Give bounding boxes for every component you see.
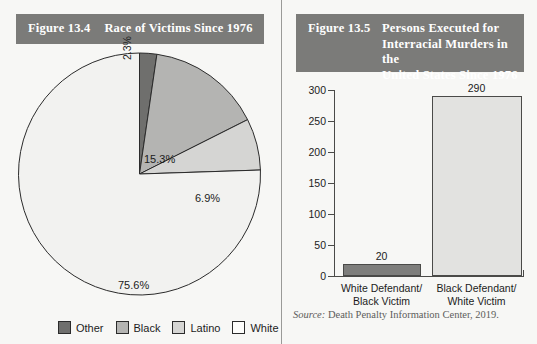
y-tick-100 [328, 214, 334, 215]
figure-13-5-title-line-1: Persons Executed for [382, 21, 524, 37]
y-axis-line [334, 90, 335, 276]
legend-label-latino: Latino [190, 322, 220, 334]
legend-label-black: Black [134, 322, 161, 334]
legend-swatch-other [58, 321, 71, 334]
y-tick-150 [328, 183, 334, 184]
pie-chart-svg [17, 50, 262, 298]
figures-page: Figure 13.4Race of Victims Since 1976 2.… [0, 0, 537, 344]
x-category-label-1: Black Defendant/White Victim [429, 282, 524, 308]
bar-value-1: 290 [447, 82, 507, 94]
x-category-line: Black Defendant/ [429, 282, 524, 295]
x-category-line: Black Victim [334, 295, 429, 308]
y-tick-200 [328, 152, 334, 153]
figure-13-4-number: Figure 13.4 [28, 21, 90, 36]
source-note: Source: Death Penalty Information Center… [293, 309, 499, 320]
pie-label-other: 2.3% [121, 36, 133, 60]
legend-swatch-white [232, 321, 245, 334]
bar-value-0: 20 [352, 250, 412, 262]
panel-divider [281, 0, 282, 344]
x-category-label-0: White Defendant/Black Victim [334, 282, 429, 308]
pie-label-white: 75.6% [118, 279, 149, 291]
legend-label-white: White [250, 322, 278, 334]
y-tick-label-250: 250 [296, 116, 326, 126]
source-text: Death Penalty Information Center, 2019. [328, 309, 499, 320]
bar-0 [343, 264, 421, 276]
legend-item-other: Other [58, 321, 104, 334]
x-category-line: White Victim [429, 295, 524, 308]
y-tick-250 [328, 121, 334, 122]
pie-label-latino: 6.9% [195, 192, 220, 204]
legend-item-black: Black [116, 321, 161, 334]
x-axis-line [334, 276, 524, 277]
y-tick-label-0: 0 [296, 271, 326, 281]
source-prefix: Source: [293, 309, 325, 320]
pie-chart: 2.3% 15.3% 6.9% 75.6% [17, 50, 262, 298]
figure-13-4-title-bar: Figure 13.4Race of Victims Since 1976 [16, 14, 264, 44]
y-tick-0 [328, 276, 334, 277]
y-tick-label-300: 300 [296, 85, 326, 95]
figure-13-4-title-text: Race of Victims Since 1976 [104, 21, 252, 35]
bar-1 [432, 96, 522, 276]
figure-13-5-title-line-3: United States Since 1976 [382, 68, 524, 84]
y-tick-50 [328, 245, 334, 246]
figure-13-5-title-bar: Figure 13.5 Persons Executed for Interra… [296, 14, 524, 72]
bar-chart: 050100150200250300 20290 White Defendant… [296, 84, 528, 284]
figure-13-5-title-line-2: Interracial Murders in the [382, 37, 524, 68]
y-tick-label-150: 150 [296, 178, 326, 188]
y-tick-label-50: 50 [296, 240, 326, 250]
y-tick-label-200: 200 [296, 147, 326, 157]
legend-item-latino: Latino [172, 321, 220, 334]
legend-swatch-latino [172, 321, 185, 334]
x-category-line: White Defendant/ [334, 282, 429, 295]
figure-13-5-number: Figure 13.5 [308, 21, 370, 36]
legend-item-white: White [232, 321, 278, 334]
legend-label-other: Other [76, 322, 104, 334]
x-axis-endcap [523, 270, 524, 277]
y-tick-300 [328, 90, 334, 91]
pie-legend: Other Black Latino White [58, 321, 291, 334]
y-tick-label-100: 100 [296, 209, 326, 219]
legend-swatch-black [116, 321, 129, 334]
pie-label-black: 15.3% [144, 153, 175, 165]
